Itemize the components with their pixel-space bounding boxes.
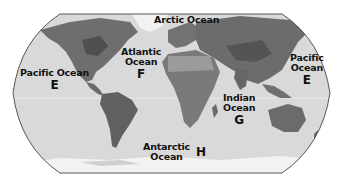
label-atlantic-ocean: Atlantic Ocean F	[121, 47, 161, 81]
pacific-ocean-east-letter: E	[290, 74, 324, 87]
antarctic-ocean-letter: H	[196, 146, 206, 159]
pacific-ocean-west-letter: E	[20, 79, 89, 92]
label-pacific-ocean-west: Pacific Ocean E	[20, 68, 89, 92]
label-pacific-ocean-east: Pacific Ocean E	[290, 53, 324, 87]
indian-ocean-letter: G	[223, 114, 255, 127]
label-arctic-ocean: Arctic Ocean	[154, 15, 219, 25]
label-antarctic-ocean: Antarctic Ocean H	[143, 142, 206, 162]
atlantic-ocean-letter: F	[121, 68, 161, 81]
label-indian-ocean: Indian Ocean G	[223, 93, 255, 127]
antarctic-ocean-line2: Ocean	[150, 151, 182, 162]
arctic-ocean-name: Arctic Ocean	[154, 14, 219, 25]
pacific-ocean-east-line2: Ocean	[291, 62, 323, 73]
pacific-ocean-west-name: Pacific Ocean	[20, 67, 89, 78]
indian-ocean-line2: Ocean	[223, 102, 255, 113]
atlantic-ocean-line2: Ocean	[125, 56, 157, 67]
